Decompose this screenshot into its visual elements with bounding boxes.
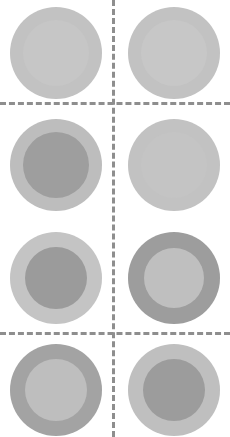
inner-circle-r2c2 bbox=[141, 132, 207, 198]
inner-circle-r4c2 bbox=[143, 359, 205, 421]
circle-cell-r3c1 bbox=[10, 232, 102, 324]
inner-circle-r3c2 bbox=[144, 248, 204, 308]
circle-cell-r4c2 bbox=[128, 344, 220, 436]
vertical-divider-1 bbox=[112, 0, 115, 437]
concentric-circle-grid bbox=[0, 0, 230, 437]
circle-cell-r4c1 bbox=[10, 344, 102, 436]
circle-cell-r1c2 bbox=[128, 7, 220, 99]
horizontal-divider-2 bbox=[0, 332, 230, 335]
inner-circle-r3c1 bbox=[25, 247, 87, 309]
inner-circle-r1c1 bbox=[23, 20, 89, 86]
circle-cell-r2c2 bbox=[128, 119, 220, 211]
circle-cell-r2c1 bbox=[10, 119, 102, 211]
circle-cell-r1c1 bbox=[10, 7, 102, 99]
inner-circle-r4c1 bbox=[25, 359, 87, 421]
inner-circle-r2c1 bbox=[23, 132, 89, 198]
circle-cell-r3c2 bbox=[128, 232, 220, 324]
horizontal-divider-1 bbox=[0, 102, 230, 105]
inner-circle-r1c2 bbox=[141, 20, 207, 86]
